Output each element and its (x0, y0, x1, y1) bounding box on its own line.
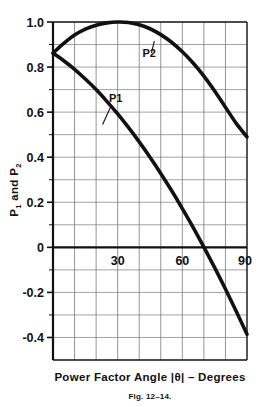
y-tick-label-0.2: 0.2 (27, 196, 44, 210)
x-axis-title-before: Power Factor Angle (54, 371, 170, 383)
y-tick-label-0.8: 0.8 (27, 61, 44, 75)
y-axis-title-and: and P (8, 168, 20, 204)
y-tick-label-0: 0 (37, 241, 44, 255)
x-axis-title-theta: |θ| (171, 371, 185, 383)
plot-background (53, 22, 247, 360)
figure-panel: 1.0 0.8 0.6 0.4 0.2 0 -0.2 -0.4 30 60 90… (0, 0, 263, 407)
y-tick-label-neg0.4: -0.4 (22, 331, 44, 345)
y-tick-label-0.4: 0.4 (27, 151, 44, 165)
y-axis-title-sub2: 2 (14, 163, 23, 167)
figure-caption: Fig. 12–14. (128, 392, 171, 401)
x-tick-label-90: 90 (238, 254, 252, 268)
y-axis-title: P1 and P2 (8, 163, 23, 216)
y-tick-label-0.6: 0.6 (27, 106, 44, 120)
y-axis-title-p1: P (8, 209, 20, 217)
x-axis-title-after: – Degrees (184, 371, 245, 383)
p1-curve-label: P1 (109, 92, 122, 104)
y-tick-label-1.0: 1.0 (27, 16, 44, 30)
y-tick-label-neg0.2: -0.2 (22, 286, 44, 300)
svg-text:P1 and P2: P1 and P2 (8, 163, 23, 216)
x-axis-title: Power Factor Angle |θ| – Degrees (54, 371, 245, 383)
x-tick-label-30: 30 (111, 254, 125, 268)
chart-svg: 1.0 0.8 0.6 0.4 0.2 0 -0.2 -0.4 30 60 90… (0, 0, 263, 407)
p2-curve-label: P2 (142, 47, 155, 59)
x-tick-label-60: 60 (175, 254, 189, 268)
